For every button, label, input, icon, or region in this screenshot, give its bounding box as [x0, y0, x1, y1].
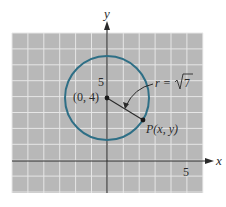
x-tick-label-5: 5	[183, 165, 189, 179]
center-label: (0, 4)	[73, 90, 99, 104]
y-axis-label: y	[102, 6, 110, 21]
point-label: P(x, y)	[145, 122, 178, 136]
center-point	[105, 96, 110, 101]
radius-label-radicand: 7	[184, 76, 190, 90]
x-axis-label: x	[215, 153, 222, 168]
radius-label-prefix: r =	[155, 76, 174, 90]
point-p	[141, 118, 146, 123]
circle-diagram: x y 5 5 (0, 4) P(x, y) r = 7	[0, 0, 226, 207]
y-tick-label-5: 5	[98, 75, 104, 89]
y-axis-arrow-icon	[104, 21, 110, 30]
x-axis-arrow-icon	[205, 158, 214, 164]
